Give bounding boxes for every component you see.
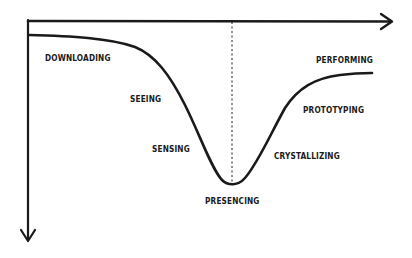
stage-label-downloading: DOWNLOADING: [45, 53, 111, 63]
horizontal-axis: [28, 14, 392, 29]
theory-u-diagram: DOWNLOADING SEEING SENSING PRESENCING CR…: [0, 0, 412, 258]
stage-label-prototyping: PROTOTYPING: [303, 105, 364, 115]
vertical-axis: [21, 20, 35, 241]
stage-label-performing: PERFORMING: [316, 55, 373, 65]
stage-label-presencing: PRESENCING: [205, 196, 260, 206]
stage-label-sensing: SENSING: [152, 144, 190, 154]
diagram-canvas: [0, 0, 412, 258]
stage-label-seeing: SEEING: [130, 94, 161, 104]
stage-label-crystallizing: CRYSTALLIZING: [274, 151, 340, 161]
